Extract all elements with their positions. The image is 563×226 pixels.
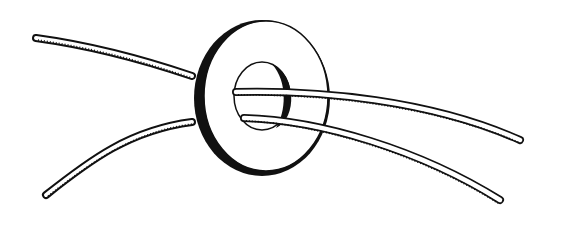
washer-ring [194, 20, 330, 176]
cord-lower-left [46, 122, 192, 196]
illustration-canvas [0, 0, 563, 226]
cords-through-ring-drawing [0, 0, 563, 226]
cord-upper-left [36, 38, 192, 78]
